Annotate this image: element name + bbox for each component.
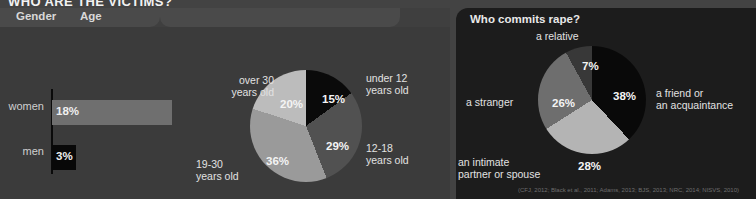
victims-panel: Gender Age women 18% men 3% under 12 yea… (0, 8, 450, 199)
age-slice-label-12-18: 12-18 years old (366, 142, 409, 166)
tab-age-label: Age (80, 10, 102, 22)
bar-label-men: men (0, 145, 44, 157)
age-slice-value-under-12: 15% (322, 93, 345, 105)
age-slice-label-19-30: 19-30 years old (196, 158, 239, 182)
tab-age[interactable] (160, 8, 400, 27)
page-title: WHO ARE THE VICTIMS? (8, 0, 172, 9)
perp-slice-value-friend: 38% (613, 90, 636, 102)
perp-slice-label-intimate-partner: an intimate partner or spouse (458, 156, 540, 180)
perp-slice-value-stranger: 26% (552, 97, 575, 109)
age-slice-value-over-30: 20% (280, 98, 303, 110)
bar-label-women: women (0, 100, 44, 112)
tab-gender-label: Gender (16, 10, 56, 22)
perp-slice-label-relative: a relative (536, 30, 579, 42)
perp-slice-value-intimate-partner: 28% (578, 160, 601, 172)
age-slice-label-over-30: over 30 years old (212, 74, 274, 98)
perpetrators-panel: Who commits rape? a relative a friend or… (456, 8, 756, 199)
victims-panel-body: women 18% men 3% under 12 years old 12-1… (0, 27, 450, 199)
perp-slice-label-stranger: a stranger (466, 96, 513, 108)
bar-value-men: 3% (56, 150, 73, 162)
perpetrators-citation: (CFJ, 2012; Black et al., 2011; Adams, 2… (518, 187, 739, 193)
perpetrators-panel-title: Who commits rape? (470, 13, 580, 25)
age-slice-label-under-12: under 12 years old (366, 72, 409, 96)
age-slice-value-19-30: 36% (266, 155, 289, 167)
perp-slice-label-friend: a friend or an acquaintance (656, 87, 733, 111)
age-slice-value-12-18: 29% (326, 140, 349, 152)
bar-value-women: 18% (56, 105, 79, 117)
perp-slice-value-relative: 7% (582, 60, 599, 72)
infographic-root: WHO ARE THE VICTIMS? Gender Age women 18… (0, 0, 756, 199)
